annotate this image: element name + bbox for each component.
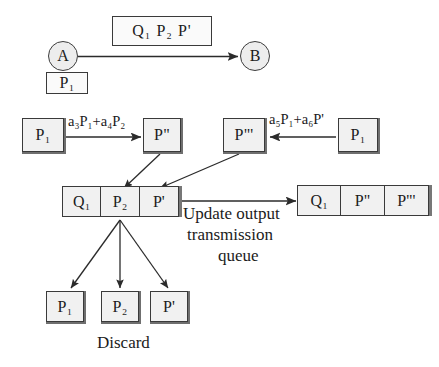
- discard-box-label: P₁: [58, 299, 73, 315]
- node-b-label: B: [250, 47, 261, 65]
- node-a-label: A: [57, 47, 69, 65]
- input-queue-cell: P': [140, 187, 178, 216]
- output-queue-cell-label: Q₁: [311, 192, 328, 210]
- input-queue: Q₁ P₂ P': [62, 186, 179, 217]
- arrow-discard-3: [120, 220, 168, 288]
- discard-box-label: P': [163, 299, 175, 315]
- update-annotation-line2-text: transmission: [187, 225, 273, 244]
- left-output-box: P": [143, 118, 181, 152]
- input-queue-cell-label: P₂: [113, 193, 127, 211]
- update-annotation-line3: queue: [218, 245, 259, 266]
- arrow-discard-1: [71, 220, 120, 288]
- output-queue-cell: P"': [385, 186, 428, 215]
- source-buffer-label: P₁: [60, 75, 75, 91]
- output-queue: Q₁ P" P"': [297, 185, 429, 216]
- discard-caption: Discard: [97, 332, 150, 353]
- input-queue-cell-label: Q₁: [73, 193, 90, 211]
- right-output-box: P"': [223, 118, 265, 152]
- discard-box: P₁: [46, 291, 84, 322]
- input-queue-cell-label: P': [153, 193, 165, 211]
- top-packet-box: Q₁ P₂ P': [112, 16, 212, 46]
- left-formula-text: a₃P₁+a₄P₂: [68, 113, 125, 129]
- update-annotation-line3-text: queue: [218, 246, 259, 265]
- right-formula-label: a₅P₁+a₆P': [269, 110, 324, 128]
- diagram-canvas: Q₁ P₂ P' A B P₁ P₁ a₃P₁+a₄P₂ P" P"' a₅P₁…: [0, 0, 439, 367]
- source-buffer-box: P₁: [46, 72, 88, 94]
- update-annotation-line1-text: Update output: [183, 204, 280, 223]
- arrow-pdd-to-queue: [124, 154, 160, 188]
- left-output-label: P": [154, 127, 170, 143]
- input-queue-cell: P₂: [101, 187, 139, 216]
- arrow-pddd-to-queue: [160, 154, 239, 188]
- discard-box-label: P₂: [113, 299, 128, 315]
- output-queue-cell-label: P"': [397, 192, 415, 210]
- update-annotation-line2: transmission: [187, 224, 273, 245]
- right-formula-text: a₅P₁+a₆P': [269, 111, 324, 127]
- discard-box: P₂: [101, 291, 139, 322]
- right-input-label: P₁: [351, 127, 366, 143]
- update-annotation-line1: Update output: [183, 203, 280, 224]
- output-queue-cell: Q₁: [298, 186, 341, 215]
- right-input-box: P₁: [338, 118, 378, 152]
- node-a: A: [48, 41, 78, 71]
- left-input-label: P₁: [36, 127, 51, 143]
- node-b: B: [240, 41, 270, 71]
- input-queue-cell: Q₁: [63, 187, 101, 216]
- output-queue-cell: P": [341, 186, 384, 215]
- right-output-label: P"': [235, 127, 254, 143]
- left-formula-label: a₃P₁+a₄P₂: [68, 112, 125, 130]
- discard-caption-text: Discard: [97, 333, 150, 352]
- discard-box: P': [150, 291, 188, 322]
- left-input-box: P₁: [22, 118, 64, 152]
- output-queue-cell-label: P": [355, 192, 370, 210]
- top-packet-box-label: Q₁ P₂ P': [132, 23, 191, 39]
